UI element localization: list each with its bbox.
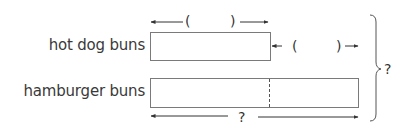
hamburger-length-question: ? bbox=[238, 110, 245, 124]
total-question: ? bbox=[384, 62, 391, 76]
difference-open-paren: ( bbox=[292, 39, 297, 53]
arrows-and-brace bbox=[0, 0, 409, 130]
difference-close-paren: ) bbox=[336, 39, 341, 53]
hot-dog-length-close-paren: ) bbox=[230, 14, 235, 28]
total-brace bbox=[370, 15, 381, 121]
hot-dog-length-open-paren: ( bbox=[185, 14, 190, 28]
hamburger-length-arrow bbox=[151, 116, 358, 117]
